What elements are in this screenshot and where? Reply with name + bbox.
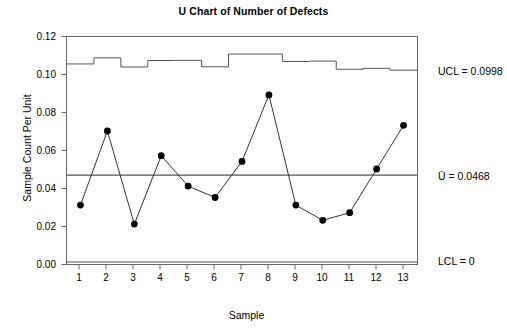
data-point <box>77 202 84 209</box>
x-tick-label: 8 <box>265 272 271 283</box>
x-axis-ticks <box>79 265 403 270</box>
x-tick-label: 11 <box>344 272 354 283</box>
x-tick-label: 6 <box>211 272 217 283</box>
data-point <box>292 202 299 209</box>
x-tick-label: 13 <box>397 272 408 283</box>
x-axis-label: Sample <box>60 309 433 321</box>
ucl-annotation: UCL = 0.0998 <box>438 65 503 77</box>
data-point <box>373 166 380 173</box>
data-point <box>185 183 192 190</box>
plot-area <box>0 0 507 333</box>
x-tick-label: 2 <box>103 272 109 283</box>
data-point <box>346 209 353 216</box>
ucl-stepped-line <box>67 54 417 70</box>
data-point <box>131 221 138 228</box>
x-tick-label: 9 <box>292 272 298 283</box>
lcl-annotation: LCL = 0 <box>438 255 475 267</box>
x-tick-label: 10 <box>316 272 327 283</box>
x-tick-label: 3 <box>130 272 136 283</box>
y-axis-ticks <box>62 37 67 265</box>
center-annotation: Ū = 0.0468 <box>438 170 490 182</box>
data-point <box>319 217 326 224</box>
data-point <box>104 128 111 135</box>
data-point <box>158 152 165 159</box>
data-point <box>212 194 219 201</box>
plot-frame <box>67 37 418 265</box>
x-tick-label: 7 <box>238 272 244 283</box>
x-tick-label: 4 <box>157 272 163 283</box>
data-point <box>239 158 246 165</box>
x-tick-label: 12 <box>370 272 381 283</box>
x-tick-label: 1 <box>76 272 82 283</box>
data-point-markers <box>77 92 407 228</box>
u-chart-figure: U Chart of Number of Defects Sample Coun… <box>0 0 507 333</box>
data-point <box>400 122 407 129</box>
data-point <box>266 92 273 99</box>
x-tick-label: 5 <box>184 272 190 283</box>
